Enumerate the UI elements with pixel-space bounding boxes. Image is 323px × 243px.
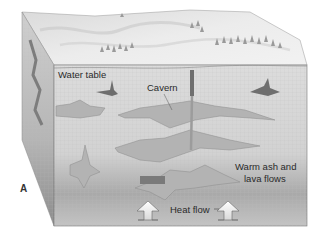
water-table-label: Water table (58, 69, 106, 80)
dark-seam (140, 176, 165, 184)
warm-ash-label-line1: Warm ash and (235, 161, 296, 172)
land-surface (22, 10, 307, 65)
panel-label: A (20, 183, 27, 194)
cavern-label: Cavern (147, 82, 178, 93)
geothermal-block-diagram (0, 0, 323, 243)
warm-ash-label-line2: lava flows (244, 173, 286, 184)
heat-flow-label: Heat flow (170, 204, 210, 215)
